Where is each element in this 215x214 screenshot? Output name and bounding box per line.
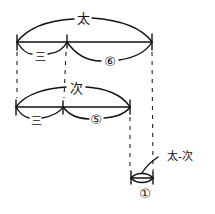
difference-bar — [131, 157, 158, 184]
top-right-arc-b — [119, 42, 152, 60]
guide-dash-mid — [64, 52, 66, 98]
top-left-arc-b — [48, 42, 67, 54]
middle-right-arc-b — [104, 107, 130, 118]
middle-left-arc-a — [16, 107, 29, 118]
difference-callout-label: 太-次 — [167, 149, 193, 163]
middle-total-arc-left — [16, 87, 66, 107]
middle-right-label: ⑤ — [90, 112, 102, 127]
guide-dash-right-top — [152, 52, 153, 170]
top-right-arc-a — [67, 42, 101, 61]
middle-total-label: 次 — [70, 81, 83, 96]
middle-total-arc-right — [86, 87, 130, 107]
top-left-label: 三 — [35, 51, 46, 64]
top-total-label: 太 — [77, 11, 90, 26]
tape-diagram: 太 三 ⑥ 次 三 ⑤ 太-次 ① — [0, 0, 215, 214]
top-total-arc-right — [92, 18, 152, 42]
top-right-label: ⑥ — [104, 54, 116, 69]
callout-leader-line — [142, 157, 158, 173]
top-left-arc-a — [17, 42, 32, 54]
middle-left-label: 三 — [31, 115, 42, 128]
top-total-arc-left — [17, 19, 74, 42]
middle-left-arc-b — [42, 107, 63, 118]
middle-right-arc-a — [63, 107, 89, 119]
difference-segment-label: ① — [139, 186, 151, 201]
